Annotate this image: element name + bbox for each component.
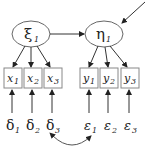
svg-text:ε: ε <box>124 118 131 133</box>
svg-text:2: 2 <box>111 126 117 135</box>
observed-x3: x 3 <box>44 68 62 88</box>
observed-x1: x 1 <box>4 68 22 88</box>
svg-text:1: 1 <box>90 77 95 86</box>
observed-y1: y 1 <box>80 68 98 88</box>
latent-xi1: ξ 1 <box>12 21 50 47</box>
svg-text:δ: δ <box>26 117 34 133</box>
observed-y3: y 3 <box>121 68 139 88</box>
svg-text:x: x <box>27 72 34 85</box>
svg-text:1: 1 <box>34 35 39 44</box>
error-delta2: δ 2 <box>26 117 40 135</box>
svg-text:2: 2 <box>34 126 40 135</box>
svg-text:1: 1 <box>15 126 20 135</box>
svg-text:y: y <box>123 72 131 85</box>
xi-symbol: ξ <box>24 25 32 43</box>
svg-text:1: 1 <box>106 35 111 44</box>
latent-eta1: η 1 <box>85 21 123 47</box>
svg-text:x: x <box>47 72 54 85</box>
svg-text:3: 3 <box>132 126 137 135</box>
observed-x2: x 2 <box>24 68 42 88</box>
svg-text:1: 1 <box>14 77 19 86</box>
svg-text:y: y <box>102 72 110 85</box>
error-delta1: δ 1 <box>6 117 20 135</box>
error-epsilon1: ε 1 <box>84 118 97 135</box>
svg-text:δ: δ <box>46 117 54 133</box>
svg-text:3: 3 <box>54 77 59 86</box>
svg-text:ε: ε <box>104 118 111 133</box>
svg-text:1: 1 <box>92 126 97 135</box>
svg-text:y: y <box>82 72 90 85</box>
svg-text:2: 2 <box>33 77 39 86</box>
svg-text:δ: δ <box>6 117 14 133</box>
svg-text:3: 3 <box>55 126 60 135</box>
observed-y2: y 2 <box>100 68 118 88</box>
eta-symbol: η <box>96 25 105 43</box>
covariance-arrow <box>53 136 91 145</box>
svg-text:2: 2 <box>109 77 115 86</box>
disturbance-arrow <box>122 2 145 23</box>
error-epsilon3: ε 3 <box>124 118 137 135</box>
error-epsilon2: ε 2 <box>104 118 117 135</box>
svg-text:3: 3 <box>131 77 136 86</box>
svg-text:x: x <box>7 72 14 85</box>
error-delta3: δ 3 <box>46 117 60 135</box>
svg-text:ε: ε <box>84 118 91 133</box>
sem-diagram: ξ 1 η 1 x 1 x 2 x 3 y 1 y 2 <box>0 0 145 148</box>
